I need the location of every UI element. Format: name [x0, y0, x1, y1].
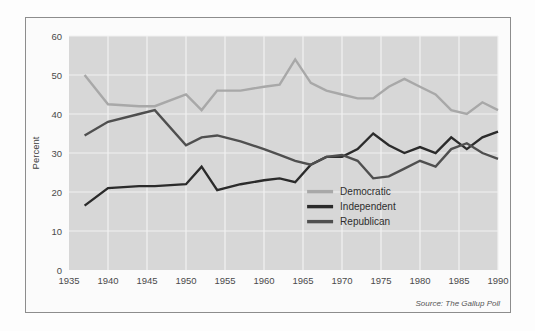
legend-label-democratic: Democratic [340, 186, 391, 197]
x-axis-tick-label: 1985 [448, 275, 469, 286]
x-axis-tick-label: 1940 [97, 275, 118, 286]
x-axis-tick-label: 1945 [136, 275, 157, 286]
x-axis-tick-label: 1975 [370, 275, 391, 286]
legend-label-independent: Independent [340, 201, 396, 212]
x-axis-tick-label: 1990 [487, 275, 508, 286]
source-note: Source: The Gallup Poll [416, 299, 501, 308]
y-axis-tick-label: 0 [57, 265, 62, 276]
x-axis-tick-label: 1970 [331, 275, 352, 286]
y-axis-tick-label: 60 [51, 31, 62, 42]
y-axis-title: Percent [30, 136, 41, 169]
chart-frame: 0102030405060193519401945195019551960196… [25, 17, 511, 313]
y-axis-tick-label: 20 [51, 187, 62, 198]
x-axis-tick-label: 1960 [253, 275, 274, 286]
line-chart: 0102030405060193519401945195019551960196… [26, 18, 510, 312]
y-axis-tick-label: 10 [51, 226, 62, 237]
figure-container: 0102030405060193519401945195019551960196… [0, 0, 535, 331]
x-axis-tick-label: 1955 [214, 275, 235, 286]
x-axis-tick-label: 1980 [409, 275, 430, 286]
y-axis-tick-label: 40 [51, 109, 62, 120]
x-axis-tick-label: 1965 [292, 275, 313, 286]
y-axis-tick-label: 50 [51, 70, 62, 81]
x-axis-tick-label: 1950 [175, 275, 196, 286]
x-axis-tick-label: 1935 [58, 275, 79, 286]
legend-label-republican: Republican [340, 216, 390, 227]
y-axis-tick-label: 30 [51, 148, 62, 159]
